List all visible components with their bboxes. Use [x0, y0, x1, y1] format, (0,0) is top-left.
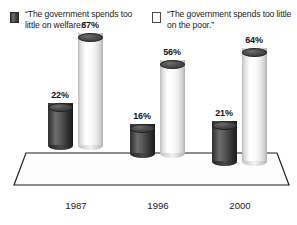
dark-cylinder-swatch-icon [10, 12, 19, 23]
value-label-welfare-1996: 16% [122, 111, 162, 121]
category-label-2000: 2000 [210, 200, 270, 211]
cylinder-poor-1987 [78, 33, 103, 150]
bar-poor-1987 [78, 33, 103, 150]
cylinder-poor-1996 [160, 60, 185, 158]
bar-welfare-1996 [130, 124, 155, 158]
bar-welfare-2000 [212, 121, 237, 166]
bar-poor-2000 [242, 48, 267, 166]
cylinder-welfare-1996 [130, 124, 155, 158]
cylinder-bar-chart: “The government spends too little on wel… [0, 0, 297, 225]
value-label-poor-1987: 67% [70, 20, 110, 30]
value-label-welfare-1987: 22% [40, 90, 80, 100]
value-label-poor-1996: 56% [152, 47, 192, 57]
cylinder-poor-2000 [242, 48, 267, 166]
category-label-1996: 1996 [128, 200, 188, 211]
light-cylinder-swatch-icon [152, 12, 161, 23]
cylinder-body [78, 33, 103, 145]
cylinder-top-ellipse [48, 103, 73, 112]
bar-poor-1996 [160, 60, 185, 158]
cylinder-top-ellipse [242, 48, 267, 57]
cylinder-body [160, 60, 185, 153]
legend-label-poor: “The government spends too little on the… [167, 9, 292, 32]
cylinder-top-ellipse [130, 124, 155, 133]
bar-welfare-1987 [48, 103, 73, 150]
cylinder-welfare-1987 [48, 103, 73, 150]
value-label-poor-2000: 64% [234, 35, 274, 45]
cylinder-body [242, 48, 267, 161]
cylinder-top-ellipse [212, 121, 237, 130]
cylinder-top-ellipse [78, 33, 103, 42]
category-label-1987: 1987 [46, 200, 106, 211]
cylinder-welfare-2000 [212, 121, 237, 166]
plot-area: 22% 67% 16% [0, 40, 297, 190]
cylinder-top-ellipse [160, 60, 185, 69]
value-label-welfare-2000: 21% [204, 108, 244, 118]
